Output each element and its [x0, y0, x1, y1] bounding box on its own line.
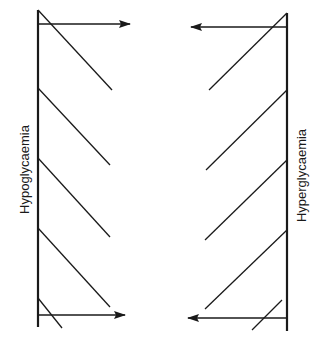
hyperglycaemia-side	[188, 13, 287, 331]
hyperglycaemia-hatch-line	[205, 230, 287, 309]
hypoglycaemia-label: Hypoglycaemia	[17, 120, 32, 220]
hypoglycaemia-hatch-line	[38, 10, 112, 90]
hypoglycaemia-side	[38, 10, 130, 328]
diagram-canvas	[0, 0, 315, 341]
hyperglycaemia-hatch-line	[206, 90, 287, 170]
hypoglycaemia-hatch-line	[38, 158, 110, 237]
hyperglycaemia-hatch-line	[209, 13, 287, 90]
hyperglycaemia-hatch-line	[205, 160, 287, 240]
hypoglycaemia-hatch-line	[38, 88, 110, 165]
hypoglycaemia-hatch-line	[38, 298, 62, 328]
hyperglycaemia-hatch-line	[252, 300, 282, 330]
hypoglycaemia-hatch-line	[38, 228, 110, 307]
hyperglycaemia-label: Hyperglycaemia	[294, 126, 309, 226]
